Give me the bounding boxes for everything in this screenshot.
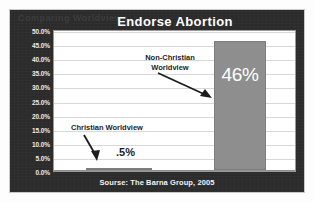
y-axis-tick-label: 45.0% — [12, 42, 50, 49]
annotation-non-christian-line1: Non-Christian — [130, 53, 210, 63]
y-axis-tick-label: 35.0% — [12, 70, 50, 77]
y-axis-tick-label: 15.0% — [12, 126, 50, 133]
chart-title: Endorse Abortion — [50, 14, 300, 29]
y-axis-tick-label: 10.0% — [12, 140, 50, 147]
gridline — [54, 32, 295, 33]
bar-value-label-non-christian: 46% — [215, 64, 265, 86]
y-axis-tick-label: 25.0% — [12, 98, 50, 105]
chart-source-footer: Sourse: The Barna Group, 2005 — [10, 178, 304, 187]
arrow-icon-non-christian — [156, 71, 218, 101]
chart-figure: Comparing Worldviews Endorse Abortion 50… — [0, 0, 314, 202]
annotation-non-christian-worldview: Non-Christian Worldview — [130, 53, 210, 73]
arrow-icon-christian — [82, 133, 108, 163]
annotation-christian-worldview: Christian Worldview — [71, 123, 143, 133]
bar-value-label-christian: .5% — [116, 146, 135, 158]
bar-non-christian-worldview: 46% — [214, 41, 266, 170]
y-axis-tick-label: 30.0% — [12, 84, 50, 91]
y-axis-tick-label: 50.0% — [12, 28, 50, 35]
axis-baseline — [54, 170, 295, 171]
y-axis-tick-label: 20.0% — [12, 112, 50, 119]
plot-area: 46% Non-Christian Worldview Christian Wo… — [53, 30, 296, 172]
chart-panel: Comparing Worldviews Endorse Abortion 50… — [9, 9, 305, 193]
y-axis-tick-label: 40.0% — [12, 56, 50, 63]
y-axis-tick-label: 0.0% — [12, 169, 50, 176]
y-axis-tick-label: 5.0% — [12, 154, 50, 161]
y-axis: 50.0%45.0%40.0%35.0%30.0%25.0%20.0%15.0%… — [12, 30, 52, 172]
